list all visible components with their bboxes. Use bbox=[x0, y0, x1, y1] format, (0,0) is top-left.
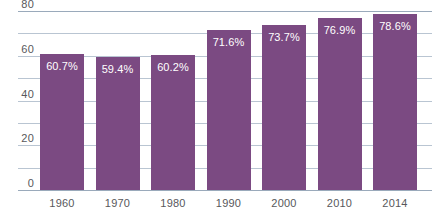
bar-value-label: 60.2% bbox=[151, 61, 195, 73]
bar[interactable]: 76.9% bbox=[318, 18, 362, 190]
x-tick-label: 2014 bbox=[373, 196, 417, 210]
x-axis-line bbox=[18, 190, 432, 191]
bars-layer: 60.7%59.4%60.2%71.6%73.7%76.9%78.6% bbox=[0, 11, 432, 190]
bar[interactable]: 78.6% bbox=[373, 14, 417, 190]
bar-chart: 806040200 60.7%59.4%60.2%71.6%73.7%76.9%… bbox=[0, 0, 432, 219]
bar-value-label: 76.9% bbox=[318, 24, 362, 36]
bar[interactable]: 60.7% bbox=[40, 54, 84, 190]
x-tick-label: 2000 bbox=[262, 196, 306, 210]
bar[interactable]: 59.4% bbox=[96, 57, 140, 190]
x-tick-label: 1960 bbox=[40, 196, 84, 210]
x-tick-label: 1970 bbox=[96, 196, 140, 210]
bar-value-label: 59.4% bbox=[96, 63, 140, 75]
y-tick-label: 80 bbox=[0, 0, 34, 10]
x-tick-label: 1990 bbox=[207, 196, 251, 210]
bar[interactable]: 60.2% bbox=[151, 55, 195, 190]
bar-value-label: 60.7% bbox=[40, 60, 84, 72]
x-tick-label: 2010 bbox=[318, 196, 362, 210]
x-tick-label: 1980 bbox=[151, 196, 195, 210]
bar[interactable]: 73.7% bbox=[262, 25, 306, 190]
x-axis: 1960197019801990200020102014 bbox=[0, 196, 432, 216]
bar-value-label: 71.6% bbox=[207, 36, 251, 48]
bar[interactable]: 71.6% bbox=[207, 30, 251, 190]
bar-value-label: 78.6% bbox=[373, 20, 417, 32]
bar-value-label: 73.7% bbox=[262, 31, 306, 43]
